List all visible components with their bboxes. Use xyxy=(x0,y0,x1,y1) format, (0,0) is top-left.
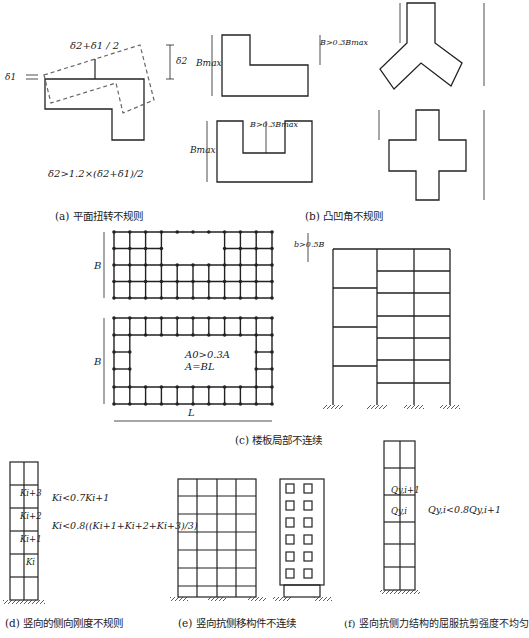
formula-a: δ2>1.2×(δ2+δ1)/2 xyxy=(48,168,144,179)
caption-c: (c) 楼板局部不连续 xyxy=(235,432,322,447)
label-d-k0: Ki xyxy=(26,557,35,567)
label-a-d1: δ1 xyxy=(5,72,16,82)
label-b-bmax-1: Bmax xyxy=(196,58,222,68)
label-d-k2: Ki+2 xyxy=(20,511,42,521)
label-f-q0: Qy,i xyxy=(391,506,407,516)
panel-e-discontinuous xyxy=(170,479,332,601)
panel-b-reentrant xyxy=(207,3,484,200)
label-c-b1: B xyxy=(94,260,101,271)
label-d-k1: Ki+1 xyxy=(20,534,42,544)
label-c-adef: A=BL xyxy=(185,361,215,372)
formula-d-2: Ki<0.8((Ki+1+Ki+2+Ki+3)/3) xyxy=(52,520,198,531)
panel-c-slab xyxy=(112,230,274,406)
label-b-cond-2: B>0.3Bmax xyxy=(250,120,298,129)
label-c-bcond: b>0.5B xyxy=(294,240,324,249)
label-d-k3: Ki+3 xyxy=(20,488,42,498)
formula-f: Qy,i<0.8Qy,i+1 xyxy=(428,504,501,515)
label-b-cond-1: B>0.3Bmax xyxy=(320,38,368,47)
caption-f: (f) 竖向抗侧力结构的屈服抗剪强度不均匀 xyxy=(344,615,529,630)
panel-f-shear-strength xyxy=(380,441,420,594)
label-a-d2: δ2 xyxy=(176,56,187,66)
label-c-l: L xyxy=(188,407,195,418)
panel-a-torsion xyxy=(26,45,174,140)
panel-d-stiffness xyxy=(3,462,45,604)
label-f-q1: Qy,i+1 xyxy=(391,485,420,495)
label-c-b2: B xyxy=(94,356,101,367)
label-c-a0: A0>0.3A xyxy=(185,349,230,360)
caption-d: (d) 竖向的侧向刚度不规则 xyxy=(5,615,123,630)
formula-d-1: Ki<0.7Ki+1 xyxy=(52,492,109,503)
caption-a: (a) 平面扭转不规则 xyxy=(55,208,143,223)
label-b-bmax-2: Bmax xyxy=(190,145,216,155)
caption-e: (e) 竖向抗侧移构件不连续 xyxy=(178,615,296,630)
label-a-top: δ2+δ1 / 2 xyxy=(70,40,119,51)
caption-b: (b) 凸凹角不规则 xyxy=(305,208,383,223)
panel-c-frame xyxy=(308,233,460,409)
